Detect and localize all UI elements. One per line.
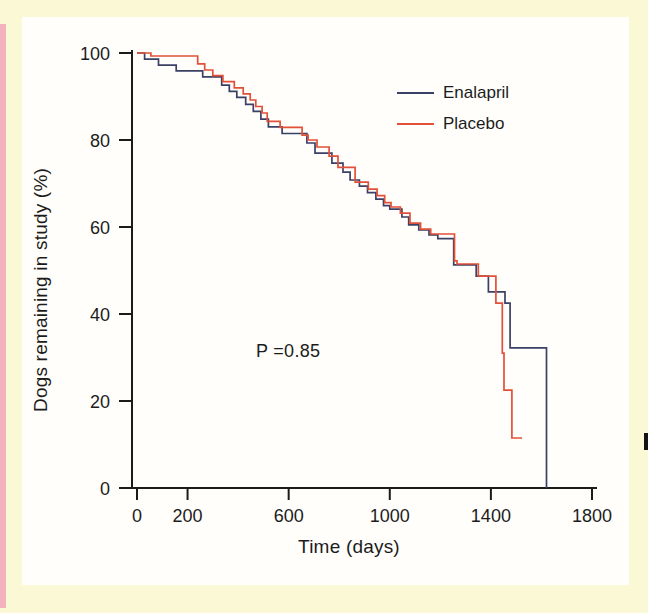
survival-chart: 0204060801000200600100014001800 [0,0,648,613]
y-tick-label: 100 [80,44,110,64]
legend-item-enalapril: Enalapril [397,83,509,103]
x-tick-label: 1400 [471,506,511,526]
y-tick-label: 40 [90,305,110,325]
x-tick-label: 0 [132,506,142,526]
scanned-figure-page: 0204060801000200600100014001800 Dogs rem… [0,0,648,613]
legend-swatch [397,123,434,125]
x-axis-title: Time (days) [298,536,400,558]
x-tick-label: 200 [173,506,203,526]
x-tick-label: 1800 [572,506,612,526]
legend: Enalapril Placebo [397,83,509,145]
y-tick-label: 80 [90,131,110,151]
x-tick-label: 1000 [370,506,410,526]
legend-item-placebo: Placebo [397,114,509,134]
p-value-annotation: P =0.85 [256,341,320,362]
x-tick-label: 600 [274,506,304,526]
legend-swatch [397,92,434,94]
legend-label-placebo: Placebo [443,114,504,134]
y-axis-title: Dogs remaining in study (%) [30,168,52,412]
legend-label-enalapril: Enalapril [443,83,509,103]
scan-artifact-mark [644,433,648,450]
axis-lines [132,50,597,488]
y-tick-label: 20 [90,392,110,412]
y-tick-label: 60 [90,218,110,238]
y-tick-label: 0 [100,479,110,499]
